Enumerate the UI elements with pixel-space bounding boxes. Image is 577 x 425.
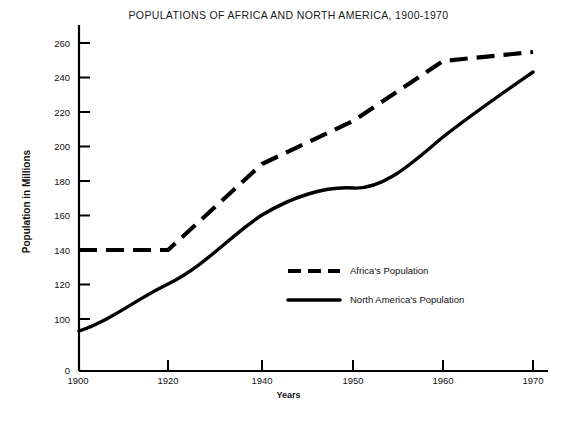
chart-container: POPULATIONS OF AFRICA AND NORTH AMERICA,…: [0, 0, 577, 425]
y-tick-marks: [79, 43, 90, 319]
series-africa-line: [79, 52, 533, 250]
x-tick-marks: [79, 360, 533, 371]
legend-label-north-america: North America's Population: [350, 294, 464, 305]
series-north-america-line: [79, 72, 533, 331]
legend-label-africa: Africa's Population: [350, 265, 428, 276]
plot-area: [0, 0, 577, 425]
